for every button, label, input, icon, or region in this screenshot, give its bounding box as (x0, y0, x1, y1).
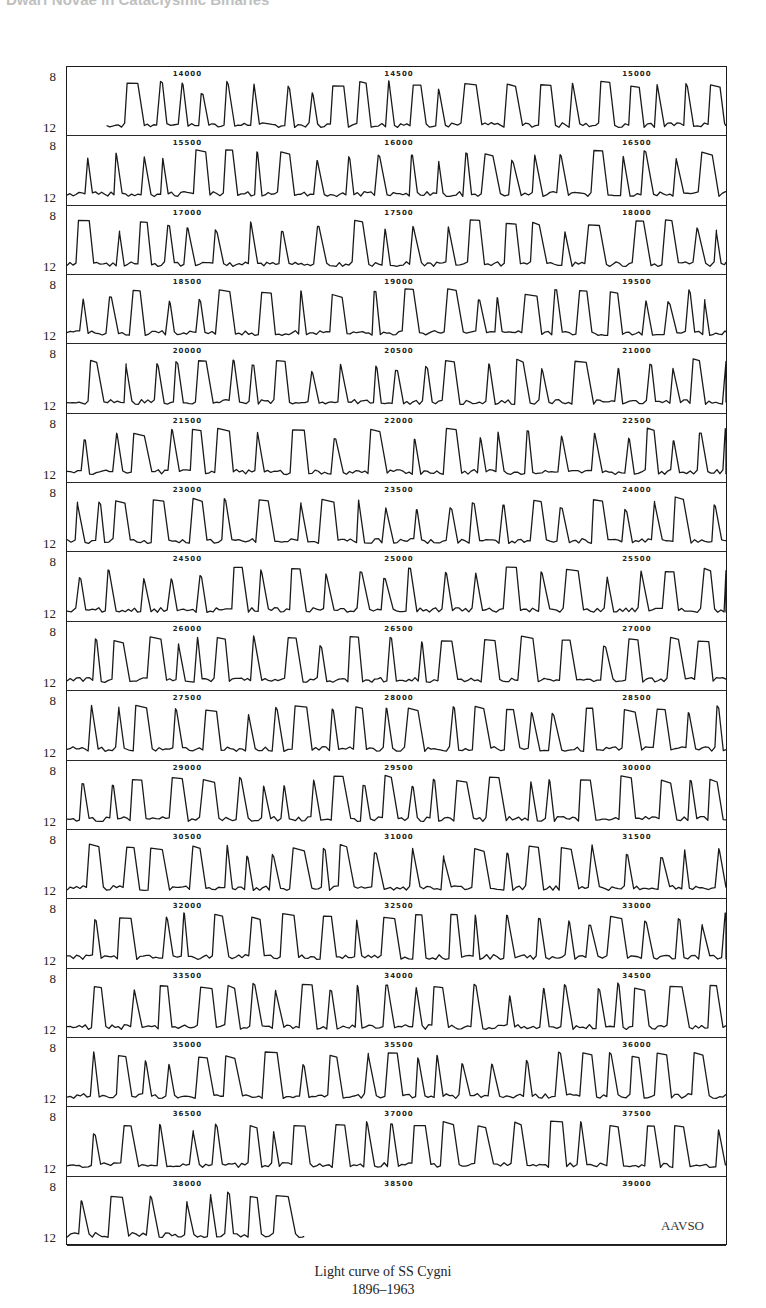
y-tick-label-12: 12 (26, 1022, 56, 1038)
light-curve-line (67, 1177, 726, 1245)
y-tick-label-8: 8 (26, 277, 56, 293)
light-curve-line (67, 899, 726, 967)
y-tick-label-8: 8 (26, 901, 56, 917)
source-label: AAVSO (661, 1218, 704, 1234)
y-tick-label-12: 12 (26, 467, 56, 483)
light-curve-panel: 380003850039000 (67, 1177, 726, 1246)
y-tick-label-12: 12 (26, 606, 56, 622)
light-curve-panel: 170001750018000 (67, 206, 726, 275)
y-tick-label-8: 8 (26, 208, 56, 224)
y-tick-label-12: 12 (26, 1091, 56, 1107)
light-curve-line (67, 691, 726, 759)
light-curve-line (67, 552, 726, 620)
light-curve-panel: 155001600016500 (67, 136, 726, 205)
y-tick-label-8: 8 (26, 971, 56, 987)
light-curve-line (67, 344, 726, 412)
y-tick-label-8: 8 (26, 832, 56, 848)
y-tick-label-8: 8 (26, 1109, 56, 1125)
light-curve-panel: 230002350024000 (67, 483, 726, 552)
y-tick-label-8: 8 (26, 138, 56, 154)
y-tick-label-12: 12 (26, 675, 56, 691)
y-tick-label-8: 8 (26, 1040, 56, 1056)
y-tick-label-12: 12 (26, 328, 56, 344)
y-tick-label-8: 8 (26, 485, 56, 501)
y-tick-label-12: 12 (26, 398, 56, 414)
light-curve-panel: 260002650027000 (67, 622, 726, 691)
light-curve-panel: 350003550036000 (67, 1038, 726, 1107)
y-tick-label-8: 8 (26, 416, 56, 432)
light-curve-panel: 215002200022500 (67, 414, 726, 483)
y-tick-label-12: 12 (26, 883, 56, 899)
y-tick-label-12: 12 (26, 259, 56, 275)
light-curve-panel: 305003100031500 (67, 830, 726, 899)
y-tick-label-8: 8 (26, 763, 56, 779)
y-tick-label-12: 12 (26, 814, 56, 830)
y-tick-label-8: 8 (26, 693, 56, 709)
y-tick-label-12: 12 (26, 120, 56, 136)
light-curve-line (67, 1038, 726, 1106)
light-curve-line (67, 969, 726, 1037)
light-curve-line (67, 67, 726, 135)
y-tick-label-8: 8 (26, 1179, 56, 1195)
y-tick-label-12: 12 (26, 1230, 56, 1246)
y-tick-label-8: 8 (26, 69, 56, 85)
light-curve-line (67, 275, 726, 343)
light-curve-line (67, 1107, 726, 1175)
light-curve-line (67, 761, 726, 829)
y-tick-label-8: 8 (26, 624, 56, 640)
light-curve-panel: 365003700037500 (67, 1107, 726, 1176)
light-curve-line (67, 622, 726, 690)
light-curve-line (67, 414, 726, 482)
caption-title: Light curve of SS Cygni (0, 1264, 766, 1280)
light-curve-panel: 320003250033000 (67, 899, 726, 968)
light-curve-panel: 335003400034500 (67, 969, 726, 1038)
light-curve-panel: 140001450015000 (67, 67, 726, 136)
y-tick-label-12: 12 (26, 745, 56, 761)
light-curve-line (67, 206, 726, 274)
page-header-cut: Dwarf Novae in Cataclysmic Binaries (0, 0, 766, 7)
light-curve-line (67, 136, 726, 204)
y-tick-label-12: 12 (26, 190, 56, 206)
light-curve-line (67, 483, 726, 551)
y-tick-label-12: 12 (26, 536, 56, 552)
light-curve-panel: 290002950030000 (67, 761, 726, 830)
y-tick-label-12: 12 (26, 1161, 56, 1177)
y-tick-label-8: 8 (26, 346, 56, 362)
caption-years: 1896–1963 (0, 1282, 766, 1298)
light-curve-panel: 200002050021000 (67, 344, 726, 413)
light-curve-chart: 3800038500390003650037000375003500035500… (66, 66, 727, 1245)
light-curve-line (67, 830, 726, 898)
light-curve-panel: 275002800028500 (67, 691, 726, 760)
y-tick-label-8: 8 (26, 554, 56, 570)
light-curve-panel: 245002500025500 (67, 552, 726, 621)
y-tick-label-12: 12 (26, 953, 56, 969)
light-curve-panel: 185001900019500 (67, 275, 726, 344)
